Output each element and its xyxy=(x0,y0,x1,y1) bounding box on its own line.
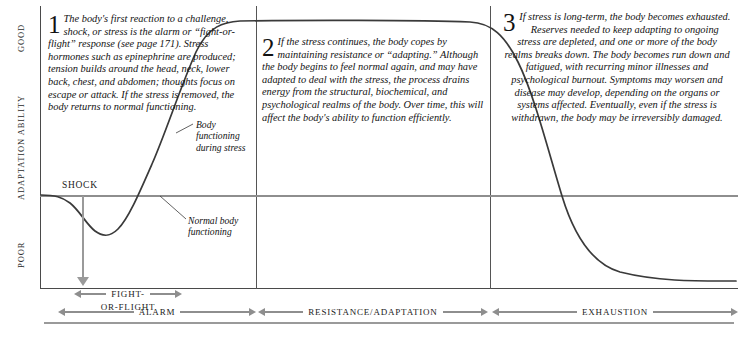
arrow-left-icon xyxy=(74,290,81,298)
phase-resistance-adaptation: RESISTANCE/ADAPTATION xyxy=(258,306,488,318)
phase-line xyxy=(653,311,731,313)
phase-line xyxy=(65,311,134,313)
stage-1-text-block: 1The body's first reaction to a challeng… xyxy=(48,13,240,114)
arrow-right-icon xyxy=(175,290,182,298)
arrow-left-icon xyxy=(492,308,499,316)
phase-line xyxy=(499,311,577,313)
stage-2-text-block: 2If the stress continues, the body copes… xyxy=(262,36,484,124)
stage-2-body: If the stress continues, the body copes … xyxy=(262,36,484,124)
arrow-left-icon xyxy=(258,308,265,316)
phase-line xyxy=(443,311,481,313)
shock-drop-arrow xyxy=(82,196,84,280)
body-functioning-label: Body functioning during stress xyxy=(196,119,260,153)
phase-exhaustion-label: EXHAUSTION xyxy=(577,307,653,317)
phase-resistance-label: RESISTANCE/ADAPTATION xyxy=(303,307,442,317)
normal-functioning-label: Normal body functioning xyxy=(188,215,266,238)
stage-3-number: 3 xyxy=(503,11,519,34)
arrow-right-icon xyxy=(249,308,256,316)
stress-curve-diagram: GOOD ADAPTATION ABILITY POOR 1The body's… xyxy=(0,0,739,337)
stage-1-number: 1 xyxy=(48,13,64,36)
stage-3-body: If stress is long-term, the body becomes… xyxy=(504,11,730,123)
phase-fight-or-flight-line1: FIGHT- xyxy=(106,289,149,299)
phase-alarm-label: ALARM xyxy=(134,307,181,317)
shock-label: SHOCK xyxy=(62,180,98,190)
arrow-right-icon xyxy=(481,308,488,316)
footer-rule xyxy=(44,322,734,324)
arrow-left-icon xyxy=(58,308,65,316)
stage-2-number: 2 xyxy=(262,36,278,59)
phase-exhaustion: EXHAUSTION xyxy=(492,306,738,318)
stage-1-body: The body's first reaction to a challenge… xyxy=(48,13,240,114)
phase-line xyxy=(150,293,175,295)
phase-line xyxy=(81,293,106,295)
phase-alarm: ALARM xyxy=(58,306,256,318)
phase-line xyxy=(265,311,303,313)
arrow-right-icon xyxy=(731,308,738,316)
stage-3-text-block: 3If stress is long-term, the body become… xyxy=(503,11,731,124)
phase-line xyxy=(180,311,249,313)
shock-drop-arrowhead xyxy=(77,277,89,286)
